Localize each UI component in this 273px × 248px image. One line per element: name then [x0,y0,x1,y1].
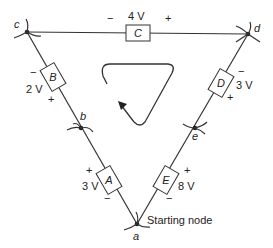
svg-text:E: E [162,174,170,186]
d-plus: + [227,91,233,103]
node-b-label: b [80,110,86,122]
a-minus: − [104,192,110,204]
c-plus: + [165,12,171,24]
b-plus: + [48,93,54,105]
e-minus: − [166,192,172,204]
element-b: B [40,63,66,92]
element-c: C [126,25,150,41]
starting-node-label: Starting node [147,214,212,226]
wire-d-a [137,34,248,224]
svg-text:A: A [104,174,112,186]
circuit-diagram: C − 4 V + B − 2 V + A + 3 V − D − 3 V + … [0,0,273,248]
svg-text:D: D [217,77,225,89]
d-voltage: 3 V [236,79,253,91]
a-voltage: 3 V [82,180,99,192]
d-minus: − [238,65,244,77]
e-voltage: 8 V [178,180,195,192]
e-plus: + [184,164,190,176]
node-d-label: d [254,22,261,34]
loop-direction-arrow-icon [102,64,173,125]
svg-text:C: C [134,27,142,39]
c-minus: − [107,12,113,24]
b-voltage: 2 V [26,83,43,95]
b-minus: − [30,66,36,78]
node-c-label: c [14,18,20,30]
c-voltage: 4 V [128,10,145,22]
a-plus: + [86,164,92,176]
node-a-label: a [133,230,139,242]
svg-text:B: B [49,71,56,83]
node-e-label: e [192,130,198,142]
